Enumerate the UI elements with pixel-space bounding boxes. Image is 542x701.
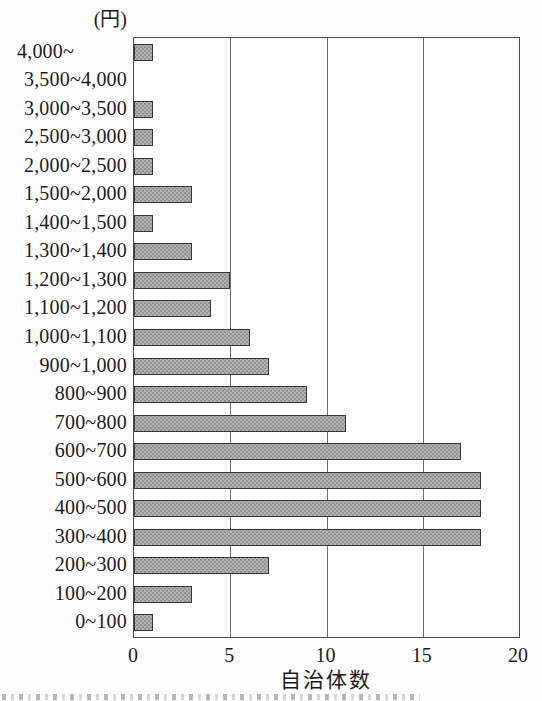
category-label: 0~100 <box>10 607 127 636</box>
bar-200-300 <box>134 557 269 574</box>
bar-1-100-1-200 <box>134 300 211 317</box>
bar-3-000-3-500 <box>134 101 153 118</box>
category-label: 2,500~3,000 <box>10 123 127 152</box>
bar-1-500-2-000 <box>134 186 192 203</box>
bar-400-500 <box>134 500 481 517</box>
category-label: 300~400 <box>10 522 127 551</box>
bar-chart-figure: (円) 4,000~3,500~4,0003,000~3,5002,500~3,… <box>0 0 542 701</box>
y-axis-unit-label: (円) <box>10 6 127 33</box>
category-label: 1,500~2,000 <box>10 180 127 209</box>
category-label: 3,500~4,000 <box>10 66 127 95</box>
bar-300-400 <box>134 529 481 546</box>
y-axis-category-labels: 4,000~3,500~4,0003,000~3,5002,500~3,0002… <box>10 37 127 636</box>
category-label: 1,200~1,300 <box>10 265 127 294</box>
bar-1-200-1-300 <box>134 272 230 289</box>
plot-area <box>133 37 520 638</box>
category-label: 100~200 <box>10 579 127 608</box>
bar-500-600 <box>134 472 481 489</box>
category-label: 600~700 <box>10 436 127 465</box>
category-label: 1,000~1,100 <box>10 322 127 351</box>
category-label: 500~600 <box>10 465 127 494</box>
x-axis-title: 自治体数 <box>133 663 519 693</box>
bar-1-300-1-400 <box>134 243 192 260</box>
bar-2-500-3-000 <box>134 129 153 146</box>
bar-2-000-2-500 <box>134 158 153 175</box>
bar-4-000- <box>134 44 153 61</box>
category-label: 1,100~1,200 <box>10 294 127 323</box>
bar-900-1-000 <box>134 358 269 375</box>
bar-1-400-1-500 <box>134 215 153 232</box>
bar-100-200 <box>134 586 192 603</box>
category-label: 1,400~1,500 <box>10 208 127 237</box>
gridline-x15 <box>423 38 424 637</box>
category-label: 700~800 <box>10 408 127 437</box>
category-label: 800~900 <box>10 379 127 408</box>
category-label: 4,000~ <box>10 37 127 66</box>
bar-800-900 <box>134 386 307 403</box>
bar-700-800 <box>134 415 346 432</box>
category-label: 1,300~1,400 <box>10 237 127 266</box>
category-label: 2,000~2,500 <box>10 151 127 180</box>
category-label: 3,000~3,500 <box>10 94 127 123</box>
bar-0-100 <box>134 614 153 631</box>
category-label: 200~300 <box>10 550 127 579</box>
category-label: 900~1,000 <box>10 351 127 380</box>
gridline-x10 <box>327 38 328 637</box>
bar-1-000-1-100 <box>134 329 250 346</box>
cropped-caption-remnant <box>2 694 420 700</box>
bar-600-700 <box>134 443 461 460</box>
category-label: 400~500 <box>10 493 127 522</box>
